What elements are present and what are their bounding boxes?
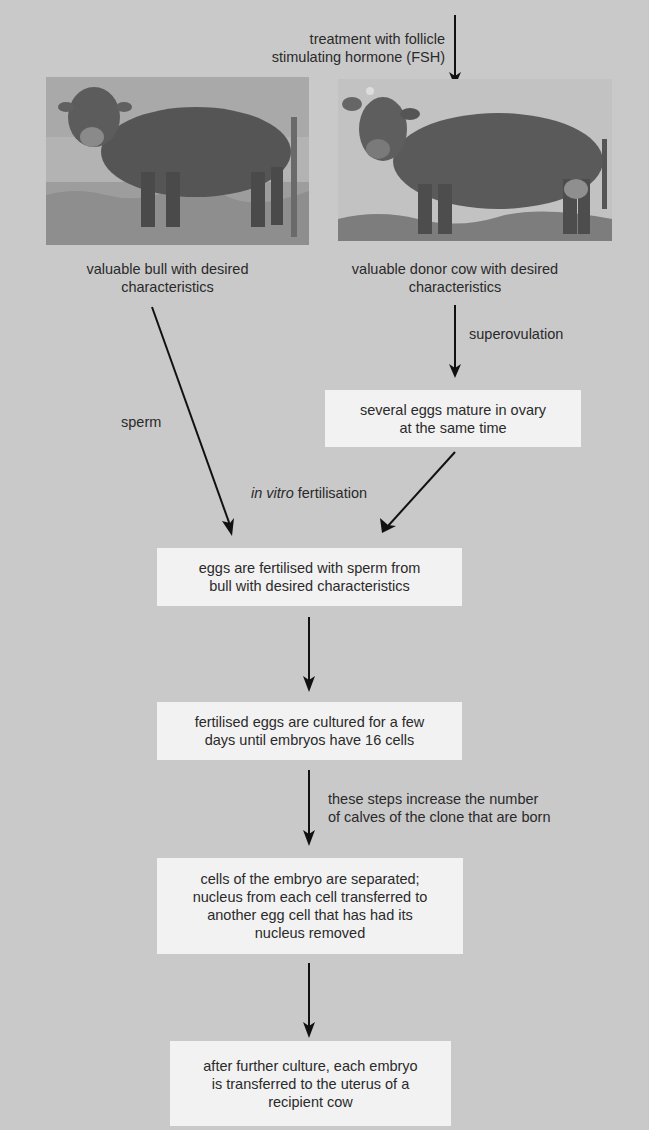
bull-image bbox=[46, 77, 309, 245]
ivf-label: in vitro fertilisation bbox=[251, 484, 367, 502]
box-eggs-fertilised: eggs are fertilised with sperm from bull… bbox=[157, 548, 462, 606]
box-line: another egg cell that has had its bbox=[193, 906, 428, 924]
cow-caption-line-1: valuable donor cow with desired bbox=[325, 260, 585, 278]
side-note-line-2: of calves of the clone that are born bbox=[328, 808, 550, 826]
bull-photo bbox=[46, 77, 309, 245]
ivf-label-rest: fertilisation bbox=[294, 485, 367, 501]
cow-photo bbox=[338, 79, 612, 241]
box-line: eggs are fertilised with sperm from bbox=[199, 559, 421, 577]
box-line: nucleus removed bbox=[193, 924, 428, 942]
fsh-label-line-2: stimulating hormone (FSH) bbox=[230, 48, 445, 66]
box-line: cells of the embryo are separated; bbox=[193, 870, 428, 888]
cow-caption: valuable donor cow with desired characte… bbox=[325, 260, 585, 296]
side-note: these steps increase the number of calve… bbox=[328, 790, 550, 826]
box-line: at the same time bbox=[360, 419, 546, 437]
cow-caption-line-2: characteristics bbox=[325, 278, 585, 296]
side-note-line-1: these steps increase the number bbox=[328, 790, 550, 808]
sperm-label: sperm bbox=[121, 413, 161, 431]
box-cells-separated: cells of the embryo are separated; nucle… bbox=[157, 858, 463, 954]
box-line: fertilised eggs are cultured for a few bbox=[195, 713, 425, 731]
ivf-label-italic: in vitro bbox=[251, 485, 294, 501]
box-line: bull with desired characteristics bbox=[199, 577, 421, 595]
box-line: after further culture, each embryo bbox=[203, 1057, 417, 1075]
box-embryo-transferred: after further culture, each embryo is tr… bbox=[170, 1041, 451, 1126]
box-line: days until embryos have 16 cells bbox=[195, 731, 425, 749]
box-line: recipient cow bbox=[203, 1093, 417, 1111]
fsh-label-line-1: treatment with follicle bbox=[230, 30, 445, 48]
fsh-label: treatment with follicle stimulating horm… bbox=[230, 30, 445, 66]
box-eggs-mature: several eggs mature in ovary at the same… bbox=[325, 390, 581, 447]
box-line: several eggs mature in ovary bbox=[360, 401, 546, 419]
bull-caption-line-1: valuable bull with desired bbox=[40, 260, 295, 278]
bull-caption-line-2: characteristics bbox=[40, 278, 295, 296]
box-eggs-cultured: fertilised eggs are cultured for a few d… bbox=[157, 702, 462, 760]
cow-image bbox=[338, 79, 612, 241]
superovulation-label: superovulation bbox=[469, 325, 563, 343]
box-line: nucleus from each cell transferred to bbox=[193, 888, 428, 906]
bull-caption: valuable bull with desired characteristi… bbox=[40, 260, 295, 296]
box-line: is transferred to the uterus of a bbox=[203, 1075, 417, 1093]
